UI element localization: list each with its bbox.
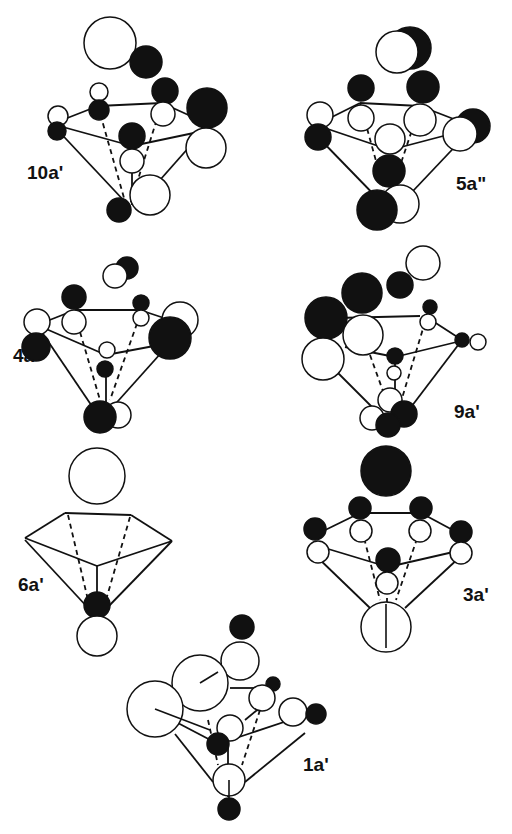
hidden-bond-line [68, 515, 88, 600]
orbital-lobe-positive [186, 128, 226, 168]
orbital-panel-3a-prime [304, 446, 472, 652]
orbital-lobe-positive [302, 338, 344, 380]
orbital-lobe-negative [306, 704, 326, 724]
orbital-lobe-positive [77, 616, 117, 656]
orbital-lobe-positive [99, 342, 115, 358]
orbital-lobe-negative [387, 348, 403, 364]
panel-label-10a-prime: 10a' [27, 163, 63, 182]
orbital-lobe-negative [130, 46, 162, 78]
orbital-lobe-positive [350, 520, 372, 542]
orbital-lobe-positive [69, 448, 125, 504]
bond-line [65, 513, 131, 515]
orbital-lobe-negative [48, 122, 66, 140]
orbital-lobe-negative [119, 123, 145, 149]
orbital-lobe-negative [361, 446, 411, 496]
orbital-lobe-negative [376, 413, 400, 437]
orbital-lobe-negative [107, 198, 131, 222]
orbital-lobe-positive [120, 149, 144, 173]
orbital-panel-1a-prime [127, 615, 326, 820]
orbital-lobe-negative [387, 272, 413, 298]
panel-label-9a-prime: 9a' [454, 402, 480, 421]
orbital-lobe-negative [218, 798, 240, 820]
bond-line [25, 513, 65, 538]
orbital-lobe-positive [348, 105, 374, 131]
hidden-bond-line [242, 710, 260, 765]
bond-line [245, 733, 305, 782]
orbital-lobe-negative [62, 285, 86, 309]
orbital-lobe-negative [342, 273, 382, 313]
orbital-lobe-negative [84, 401, 116, 433]
orbital-lobe-negative [349, 497, 371, 519]
orbital-lobe-negative [187, 88, 227, 128]
orbital-lobe-positive [450, 542, 472, 564]
bond-line [360, 103, 420, 106]
orbital-lobe-positive [404, 104, 436, 136]
orbital-lobe-positive [90, 83, 108, 101]
orbital-lobe-negative [84, 592, 110, 618]
orbital-lobe-positive [406, 246, 440, 280]
orbital-lobe-positive [343, 315, 383, 355]
orbital-lobe-negative [455, 333, 469, 347]
orbital-panel-5a-double-prime [305, 27, 490, 230]
panel-label-1a-prime: 1a' [303, 755, 329, 774]
orbital-lobe-positive [387, 366, 401, 380]
orbital-lobe-negative [410, 497, 432, 519]
orbital-lobe-positive [133, 310, 149, 326]
orbital-lobe-positive [376, 572, 398, 594]
orbital-lobe-negative [304, 518, 326, 540]
orbital-lobe-negative [152, 78, 178, 104]
orbital-lobe-positive [375, 124, 405, 154]
bond-line [405, 555, 462, 608]
orbital-lobe-positive [249, 685, 275, 711]
orbital-lobe-positive [376, 31, 418, 73]
orbital-lobe-positive [103, 264, 127, 288]
orbital-lobe-negative [407, 71, 439, 103]
orbital-lobe-negative [376, 548, 400, 572]
orbital-panel-6a-prime [25, 448, 172, 656]
orbital-lobe-negative [348, 75, 374, 101]
orbital-lobe-negative [373, 155, 405, 187]
orbital-lobe-negative [305, 124, 331, 150]
orbital-panel-4a-double-prime [22, 257, 198, 433]
orbital-lobe-positive [151, 102, 175, 126]
orbital-lobe-negative [305, 297, 347, 339]
orbital-lobe-negative [230, 615, 254, 639]
orbital-lobe-positive [24, 309, 50, 335]
panel-label-3a-prime: 3a' [463, 585, 489, 604]
orbital-lobe-negative [133, 295, 149, 311]
orbital-lobe-positive [130, 175, 170, 215]
orbital-figure [0, 0, 512, 834]
orbital-lobe-negative [357, 190, 397, 230]
orbital-lobe-positive [62, 310, 86, 334]
orbital-lobe-positive [307, 541, 329, 563]
orbital-lobe-positive [84, 17, 136, 69]
orbital-panel-10a-prime [48, 17, 227, 222]
hidden-bond-line [110, 315, 140, 400]
orbital-lobe-positive [279, 698, 307, 726]
orbital-lobe-negative [207, 733, 229, 755]
bond-line [315, 555, 370, 608]
orbital-lobe-negative [423, 300, 437, 314]
orbital-lobe-negative [97, 361, 113, 377]
panel-label-6a-prime: 6a' [18, 575, 44, 594]
orbital-lobe-negative [450, 521, 472, 543]
orbital-lobe-positive [443, 117, 477, 151]
orbital-lobe-negative [89, 100, 109, 120]
bond-line [336, 316, 420, 318]
panel-label-4a-double-prime: 4a" [13, 346, 43, 365]
bond-line [131, 515, 172, 541]
orbital-lobe-negative [149, 317, 191, 359]
orbital-lobe-positive [470, 334, 486, 350]
orbital-lobe-positive [409, 520, 431, 542]
orbital-lobe-positive [420, 314, 436, 330]
panel-label-5a-double-prime: 5a" [456, 174, 486, 193]
